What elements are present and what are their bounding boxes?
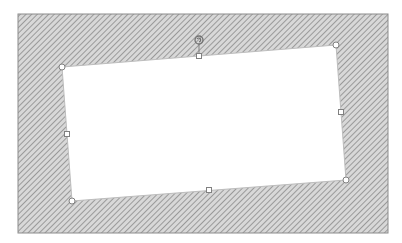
- resize-handle-top-mid[interactable]: [197, 54, 202, 59]
- selected-rectangle-shape[interactable]: [62, 45, 346, 201]
- resize-handle-bottom-right[interactable]: [343, 177, 349, 183]
- resize-handle-bottom-left[interactable]: [69, 198, 75, 204]
- resize-handle-top-right[interactable]: [333, 42, 339, 48]
- resize-handle-bottom-mid[interactable]: [207, 188, 212, 193]
- resize-handle-right-mid[interactable]: [339, 110, 344, 115]
- slide-canvas: [0, 0, 402, 243]
- resize-handle-left-mid[interactable]: [65, 132, 70, 137]
- resize-handle-top-left[interactable]: [59, 64, 65, 70]
